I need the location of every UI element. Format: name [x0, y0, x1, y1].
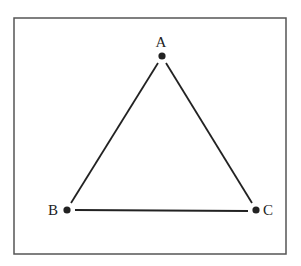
vertex-a-label: A: [156, 34, 167, 50]
triangle-edges: [71, 63, 252, 211]
vertex-b-dot: [63, 206, 70, 213]
triangle-vertices: ABC: [48, 34, 273, 218]
edge-bc: [75, 210, 248, 211]
edge-ab: [71, 63, 158, 203]
edge-ac: [166, 63, 252, 203]
vertex-a-dot: [158, 52, 165, 59]
diagram-frame: [14, 18, 286, 254]
vertex-c-label: C: [263, 202, 273, 218]
vertex-b-label: B: [48, 202, 58, 218]
vertex-c-dot: [252, 206, 259, 213]
triangle-diagram: ABC: [0, 0, 301, 266]
